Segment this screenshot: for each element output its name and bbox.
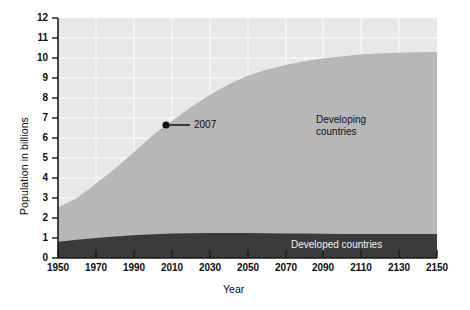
developing-countries-label-line1: Developing [316,114,366,126]
developed-countries-label: Developed countries [291,239,382,251]
x-tick-label-2030: 2030 [190,262,230,273]
x-axis-title: Year [223,283,244,295]
x-tick-label-2010: 2010 [152,262,192,273]
y-tick-label-10: 10 [26,52,48,63]
x-tick-label-2050: 2050 [228,262,268,273]
x-tick-label-2130: 2130 [379,262,419,273]
y-tick-label-8: 8 [26,92,48,103]
annotation-label-2007: 2007 [194,119,216,130]
x-tick-label-1970: 1970 [76,262,116,273]
annotation-marker-dot [162,121,169,128]
developing-countries-label: Developing countries [316,114,366,137]
population-projection-chart: 12 11 10 9 8 7 6 5 4 3 2 1 0 1950 1970 1… [0,0,470,310]
y-axis-title: Population in billions [18,117,30,215]
y-axis-ticks [52,18,58,258]
y-tick-label-12: 12 [26,12,48,23]
developing-countries-label-line2: countries [316,126,366,138]
x-tick-label-2070: 2070 [266,262,306,273]
y-tick-label-9: 9 [26,72,48,83]
x-tick-label-2090: 2090 [303,262,343,273]
y-tick-label-1: 1 [26,232,48,243]
x-tick-label-2110: 2110 [341,262,381,273]
x-tick-label-1990: 1990 [114,262,154,273]
y-tick-label-11: 11 [26,32,48,43]
x-tick-label-2150: 2150 [417,262,457,273]
x-tick-label-1950: 1950 [38,262,78,273]
